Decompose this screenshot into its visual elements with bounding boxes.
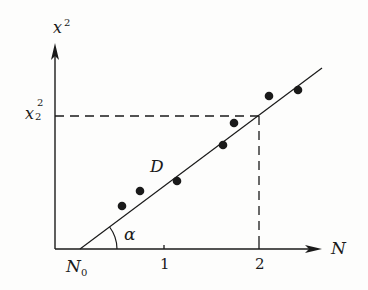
origin-label-sub: 0 [81, 267, 87, 278]
data-point [118, 202, 127, 211]
data-point [173, 177, 182, 186]
data-point [230, 119, 239, 128]
x-axis-label: N [331, 240, 346, 257]
line-label-d: D [150, 158, 164, 175]
y-marker-sup: 2 [37, 98, 43, 108]
y-marker-label: x22 [25, 106, 34, 122]
data-point [136, 187, 145, 196]
y-axis-label-sup: 2 [64, 17, 70, 28]
data-point [294, 86, 303, 95]
plot-svg [0, 0, 368, 290]
fit-line-d [80, 68, 322, 249]
y-marker-base: x [25, 104, 34, 123]
y-axis-label: x2 [53, 20, 70, 36]
angle-arc [110, 227, 117, 249]
y-marker-sub: 2 [35, 112, 41, 122]
diagram-canvas: x2 x22 D α N0 1 2 N [0, 0, 368, 290]
angle-label-alpha: α [124, 226, 135, 243]
x-tick-label-1: 1 [160, 257, 170, 272]
origin-label: N0 [66, 258, 87, 275]
origin-label-base: N [66, 256, 81, 276]
data-points [118, 86, 303, 211]
x-tick-label-2: 2 [255, 257, 265, 272]
y-axis-label-base: x [53, 18, 62, 37]
data-point [219, 141, 228, 150]
data-point [265, 92, 274, 101]
